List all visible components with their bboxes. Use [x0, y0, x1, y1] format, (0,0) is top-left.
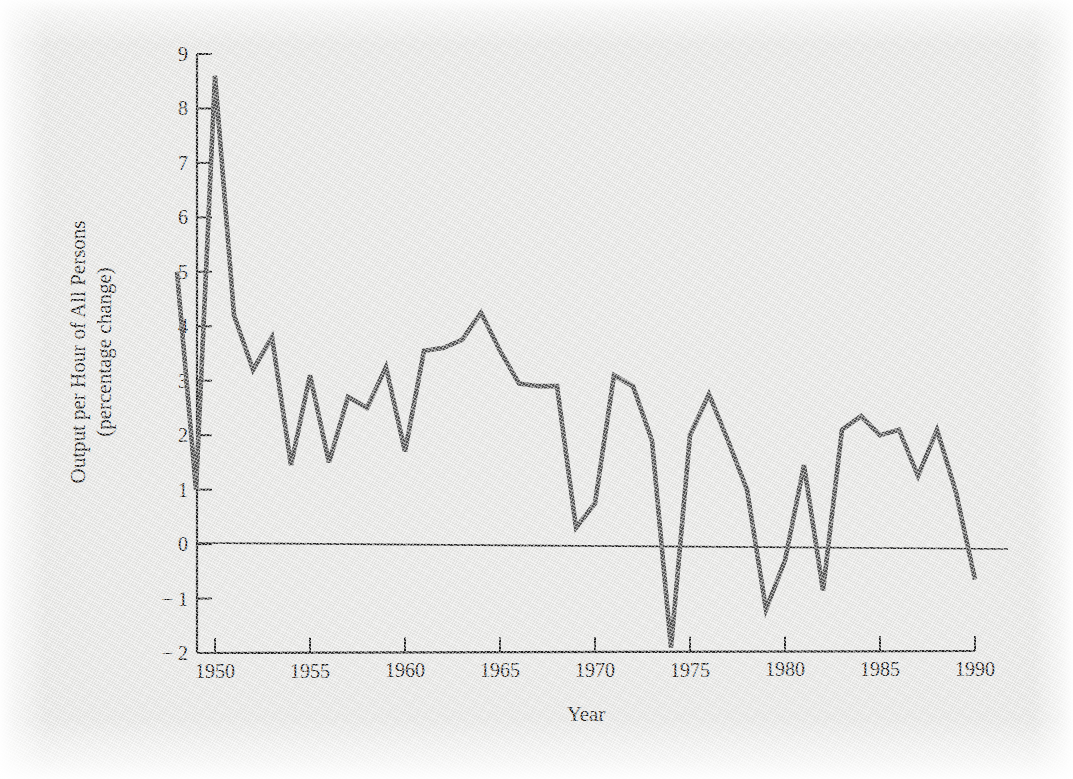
zero-reference-line [197, 543, 1008, 549]
y-tick-label: − 2 [162, 642, 188, 664]
y-tick-label: 9 [178, 43, 188, 65]
x-tick-label: 1950 [195, 660, 235, 682]
x-axis [197, 651, 975, 653]
y-tick-label: 2 [178, 424, 188, 446]
x-tick-label: 1980 [765, 658, 805, 680]
y-tick-label: 0 [178, 533, 188, 555]
y-axis-title-line2: (percentage change) [92, 267, 116, 437]
y-tick-label: 8 [178, 97, 188, 119]
y-tick-label: − 1 [162, 588, 188, 610]
x-tick-label: 1965 [480, 659, 520, 681]
line-chart: − 2− 10123456789 19501955196019651970197… [0, 0, 1073, 779]
y-tick-label: 1 [178, 479, 188, 501]
x-tick-label: 1985 [860, 658, 900, 680]
x-tick-label: 1955 [290, 660, 330, 682]
y-tick-label: 6 [178, 206, 188, 228]
x-tick-label: 1970 [575, 659, 615, 681]
x-tick-label: 1990 [955, 658, 995, 680]
data-series-line [177, 76, 975, 648]
x-axis-tick-labels: 195019551960196519701975198019851990 [195, 658, 995, 682]
figure-container: − 2− 10123456789 19501955196019651970197… [0, 0, 1073, 779]
x-tick-label: 1960 [385, 659, 425, 681]
x-tick-label: 1975 [670, 659, 710, 681]
y-tick-label: 7 [178, 152, 188, 174]
x-axis-title: Year [567, 702, 606, 726]
y-axis-title-line1: Output per Hour of All Persons [66, 220, 90, 483]
